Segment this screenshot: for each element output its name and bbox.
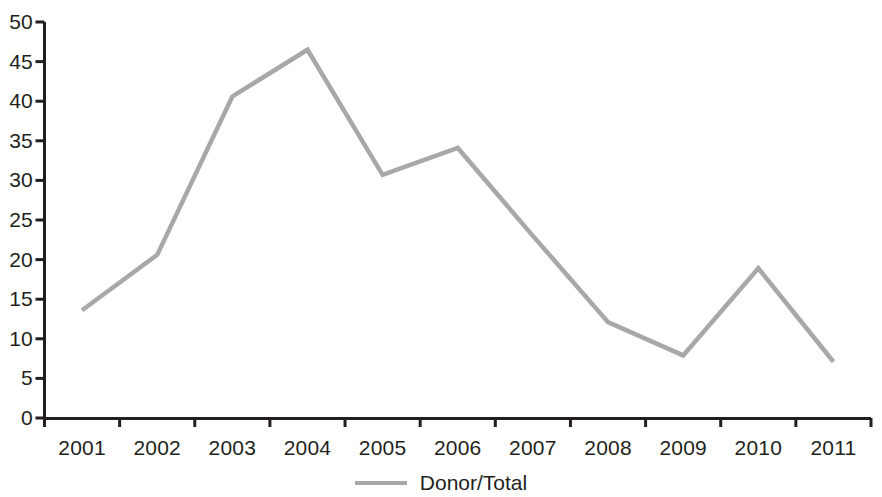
x-axis-tick-label: 2010 — [721, 437, 796, 458]
line-chart: 05101520253035404550 2001200220032004200… — [0, 0, 882, 497]
y-axis-tick-label: 20 — [0, 249, 33, 270]
y-axis-tick-label: 45 — [0, 51, 33, 72]
y-axis-tick-label: 35 — [0, 130, 33, 151]
plot-area — [0, 0, 882, 497]
x-axis-tick-label: 2008 — [570, 437, 645, 458]
x-axis-tick-label: 2001 — [45, 437, 120, 458]
data-series-line — [82, 50, 833, 362]
y-axis-tick-label: 5 — [0, 367, 33, 388]
x-axis-tick-label: 2007 — [495, 437, 570, 458]
x-axis-tick-label: 2003 — [195, 437, 270, 458]
y-axis-tick-label: 25 — [0, 209, 33, 230]
y-axis-tick-label: 50 — [0, 11, 33, 32]
x-axis-tick-label: 2005 — [345, 437, 420, 458]
chart-legend: Donor/Total — [0, 468, 882, 497]
x-axis-tick-label: 2002 — [120, 437, 195, 458]
data-series-group — [82, 50, 833, 362]
x-axis-tick-label: 2009 — [646, 437, 721, 458]
x-axis-tick-label: 2011 — [796, 437, 871, 458]
y-axis-tick-label: 40 — [0, 90, 33, 111]
axes — [44, 22, 871, 419]
x-axis-tick-label: 2006 — [420, 437, 495, 458]
y-axis-tick-label: 0 — [0, 407, 33, 428]
y-axis-tick-label: 10 — [0, 328, 33, 349]
y-axis-tick-label: 30 — [0, 169, 33, 190]
x-axis-tick-label: 2004 — [270, 437, 345, 458]
y-axis-tick-label: 15 — [0, 288, 33, 309]
legend-line-swatch-donor-total — [355, 481, 407, 485]
legend-label-donor-total: Donor/Total — [420, 471, 527, 494]
